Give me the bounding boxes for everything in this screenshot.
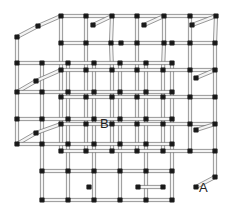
tube <box>188 70 191 97</box>
tube <box>118 63 121 92</box>
tube <box>135 124 138 151</box>
lattice-node <box>90 22 95 27</box>
lattice-node <box>91 197 96 202</box>
lattice-node <box>169 40 174 45</box>
tube <box>86 95 112 98</box>
lattice-node <box>135 184 140 189</box>
lattice-node <box>169 116 174 121</box>
tube <box>68 117 94 120</box>
tube <box>15 119 18 144</box>
tube <box>146 142 172 145</box>
tube <box>92 144 95 171</box>
tube <box>61 122 86 125</box>
lattice-node <box>161 40 166 45</box>
tube <box>94 198 120 201</box>
tube <box>163 149 190 152</box>
tube <box>120 90 146 93</box>
point-label-a: A <box>199 181 208 194</box>
tube <box>68 61 94 64</box>
lattice-node <box>14 116 19 121</box>
tube <box>146 169 172 172</box>
lattice-node <box>212 148 217 153</box>
tube <box>42 61 68 64</box>
tube <box>40 92 43 119</box>
tube <box>163 68 190 71</box>
tube <box>59 43 62 70</box>
lattice-node <box>65 197 70 202</box>
tube <box>112 122 137 125</box>
lattice-node <box>83 148 88 153</box>
tube <box>40 171 43 200</box>
lattice-node <box>86 184 91 189</box>
lattice-node <box>91 141 96 146</box>
tube <box>86 149 112 152</box>
tube <box>164 14 190 17</box>
lattice-node <box>14 34 19 39</box>
lattice-node <box>161 13 166 18</box>
tube <box>188 43 191 70</box>
tube <box>109 16 113 43</box>
tube <box>144 63 147 92</box>
lattice-diagram <box>0 0 231 214</box>
tube <box>61 95 86 98</box>
tube <box>42 198 68 201</box>
tube <box>138 185 163 188</box>
tube <box>213 151 216 177</box>
lattice-node <box>189 22 194 27</box>
lattice-node <box>143 168 148 173</box>
lattice-node <box>39 116 44 121</box>
lattice-node <box>14 141 19 146</box>
lattice-node <box>65 168 70 173</box>
tube <box>42 117 68 120</box>
lattice-node <box>91 116 96 121</box>
tube <box>86 41 111 44</box>
tube <box>112 14 137 17</box>
lattice-node <box>187 40 192 45</box>
tube <box>94 90 120 93</box>
tube <box>170 171 173 200</box>
tube <box>84 16 87 43</box>
tube <box>68 169 94 172</box>
tube <box>120 169 146 172</box>
lattice-node <box>143 116 148 121</box>
lattice-node <box>187 121 192 126</box>
lattice-node <box>33 78 38 83</box>
tube <box>92 171 95 200</box>
tube <box>163 122 190 125</box>
lattice-node <box>169 168 174 173</box>
tube <box>146 198 172 201</box>
lattice-node <box>65 60 70 65</box>
tube <box>146 61 172 64</box>
lattice-node <box>169 141 174 146</box>
tube <box>188 16 191 43</box>
tube <box>118 171 121 200</box>
tube <box>120 142 146 145</box>
lattice-node <box>117 141 122 146</box>
lattice-node <box>39 168 44 173</box>
tube <box>92 63 95 92</box>
lattice-node <box>83 67 88 72</box>
lattice-node <box>117 116 122 121</box>
tube <box>137 122 163 125</box>
tube <box>188 124 191 151</box>
lattice-node <box>118 40 123 45</box>
lattice-node <box>160 94 165 99</box>
tube <box>17 142 42 145</box>
lattice-node <box>91 168 96 173</box>
tube <box>94 61 120 64</box>
tube <box>68 198 94 201</box>
lattice-node <box>39 60 44 65</box>
lattice-node <box>134 94 139 99</box>
tube <box>137 68 163 71</box>
tube <box>213 70 216 97</box>
tube <box>137 41 164 44</box>
tube <box>146 90 172 93</box>
tube <box>94 142 120 145</box>
tube <box>61 68 86 71</box>
tube <box>162 16 165 43</box>
tube <box>68 90 94 93</box>
tube <box>118 144 121 171</box>
lattice-node <box>109 148 114 153</box>
lattice-node <box>109 67 114 72</box>
lattice-node <box>160 121 165 126</box>
